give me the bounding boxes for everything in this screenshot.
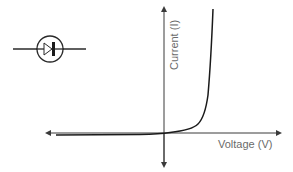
iv-curve [56,9,213,135]
x-axis-label: Voltage (V) [218,138,272,150]
diode-symbol-icon [13,36,86,62]
y-axis-label: Current (I) [168,20,180,70]
